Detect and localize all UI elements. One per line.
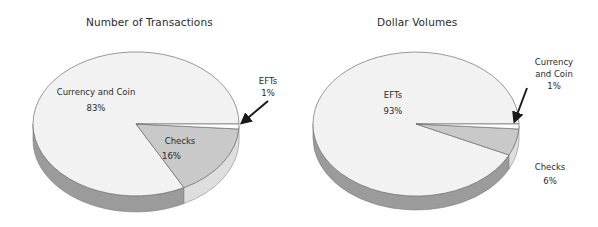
chart-title-dollar-volumes: Dollar Volumes	[377, 16, 457, 28]
label-value: 1%	[524, 80, 584, 92]
label-name-line1: Currency	[524, 56, 584, 68]
currency-callout-arrow	[515, 88, 527, 120]
label-name: EFTs	[250, 75, 286, 87]
label-currency-and-coin: Currency and Coin 1%	[524, 56, 584, 92]
label-value: 6%	[530, 175, 570, 187]
label-name: EFTs	[373, 89, 413, 101]
label-checks: Checks 16%	[160, 135, 200, 162]
label-efts: EFTs 93%	[373, 89, 413, 117]
label-name: Checks	[160, 135, 200, 147]
label-value: 83%	[50, 102, 142, 114]
pie-number-of-transactions	[33, 52, 268, 212]
chart-title-transactions: Number of Transactions	[86, 16, 213, 28]
label-efts: EFTs 1%	[250, 75, 286, 99]
label-checks: Checks 6%	[530, 161, 570, 187]
label-value: 93%	[373, 105, 413, 117]
efts-callout-arrow	[243, 101, 268, 122]
label-currency-and-coin: Currency and Coin 83%	[50, 86, 142, 114]
label-name: Checks	[530, 161, 570, 173]
label-value: 1%	[250, 87, 286, 99]
pie-dollar-volumes	[313, 52, 527, 210]
label-value: 16%	[160, 150, 200, 162]
label-name-line2: and Coin	[524, 68, 584, 80]
label-name: Currency and Coin	[50, 86, 142, 98]
